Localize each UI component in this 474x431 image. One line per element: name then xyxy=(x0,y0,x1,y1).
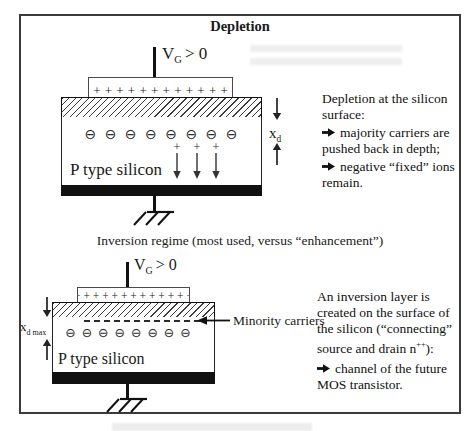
silicon-body-label: P type silicon xyxy=(58,350,145,368)
note-bullet-line: negative “fixed” ions xyxy=(322,159,462,175)
depletion-note: Depletion at the silicon surface: majori… xyxy=(322,91,462,190)
note-line: remain. xyxy=(322,175,462,191)
inversion-layer-dashes xyxy=(84,320,200,322)
depth-label: xd xyxy=(269,125,281,144)
ground-icon xyxy=(106,397,148,414)
majority-carrier-group: + xyxy=(209,142,223,179)
minority-carriers-label: Minority carriers xyxy=(233,313,325,329)
note-line: Depletion at the silicon xyxy=(322,91,462,107)
depth-down-arrow-icon xyxy=(271,98,283,120)
depth-down-arrow-icon xyxy=(41,297,53,317)
gate-charges: + + + + + + + + + + + + + + xyxy=(88,85,233,97)
depth-up-arrow-icon xyxy=(271,143,283,165)
substrate-contact xyxy=(61,185,262,196)
gate-electrode: + + + + + + + + + + + + + + xyxy=(88,77,233,98)
ghost-artifact xyxy=(112,423,312,431)
electron-row: ⊖ ⊖ ⊖ ⊖ ⊖ ⊖ ⊖ ⊖ xyxy=(62,325,194,340)
gate-charges: + + + + + + + + + + + + + xyxy=(77,291,190,302)
note-line: surface: xyxy=(322,107,462,123)
note-line: source and drain n++): xyxy=(317,337,467,357)
note-line: An inversion layer is xyxy=(317,289,467,305)
gate-wire xyxy=(126,262,129,288)
figure-title: Depletion xyxy=(19,18,461,35)
note-bullet-line: majority carriers are xyxy=(322,125,462,141)
note-bullet-line: channel of the future xyxy=(317,361,467,377)
figure-canvas: Depletion VG> 0 + + + + + + + + + + + + … xyxy=(0,0,474,431)
note-line: MOS transistor. xyxy=(317,377,467,393)
minority-carriers-arrow-icon xyxy=(197,315,230,326)
silicon-body-label: P type silicon xyxy=(70,160,162,180)
bullet-arrow-icon xyxy=(322,162,335,171)
inversion-caption: Inversion regime (most used, versus “enh… xyxy=(19,233,461,249)
note-line: the silicon (“connecting” xyxy=(317,321,467,337)
oxide-layer xyxy=(52,302,215,318)
fixed-ions-row: ⊖ ⊖ ⊖ ⊖ ⊖ ⊖ ⊖ ⊖ xyxy=(75,126,247,142)
gate-electrode: + + + + + + + + + + + + + xyxy=(77,287,190,303)
depth-up-arrow-icon xyxy=(41,339,53,360)
ground-icon xyxy=(133,210,175,227)
majority-carrier-group: + xyxy=(190,142,204,179)
bullet-arrow-icon xyxy=(322,128,335,137)
inversion-note: An inversion layer is created on the sur… xyxy=(317,289,467,393)
gate-voltage-label: VG> 0 xyxy=(162,44,207,65)
down-arrow-icon xyxy=(172,152,182,179)
depth-label: xd max xyxy=(20,319,46,337)
note-line: created on the surface of xyxy=(317,305,467,321)
down-arrow-icon xyxy=(192,152,202,179)
substrate-contact xyxy=(52,372,215,384)
note-line: pushed back in depth; xyxy=(322,141,462,157)
majority-carrier-group: + xyxy=(170,142,184,179)
gate-wire xyxy=(153,47,156,78)
down-arrow-icon xyxy=(211,152,221,179)
oxide-layer xyxy=(61,97,262,118)
bullet-arrow-icon xyxy=(317,364,330,373)
gate-voltage-label: VG> 0 xyxy=(134,256,177,276)
